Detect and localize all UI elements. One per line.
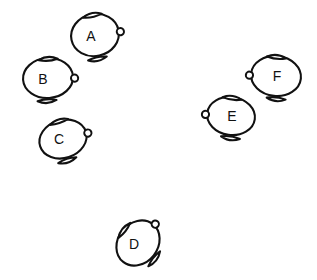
shape-f-label: F [273, 68, 282, 84]
shape-f-foot-bottom [266, 96, 285, 102]
shapes-diagram: ABCDEF [0, 0, 317, 280]
shape-f-handle-knob [245, 71, 253, 79]
shape-b[interactable] [22, 55, 80, 105]
shape-b-handle-knob [71, 74, 79, 82]
shape-c-label: C [54, 131, 64, 147]
shape-e-handle-knob [201, 110, 209, 118]
shape-b-body [22, 56, 75, 99]
shape-b-foot-bottom [38, 99, 57, 104]
shape-a-handle-knob [116, 27, 125, 36]
diagram-canvas: ABCDEF [0, 0, 317, 280]
shape-e-foot-bottom [221, 135, 240, 141]
shape-b-foot-top [39, 56, 58, 61]
shape-c-handle-knob [83, 128, 92, 137]
shape-e-label: E [227, 108, 236, 124]
shape-a-label: A [86, 28, 96, 44]
shape-d[interactable] [107, 207, 176, 277]
shape-c[interactable] [34, 111, 98, 169]
shape-d-label: D [129, 236, 139, 252]
shape-b-label: B [38, 71, 47, 87]
shape-a[interactable] [67, 7, 129, 65]
